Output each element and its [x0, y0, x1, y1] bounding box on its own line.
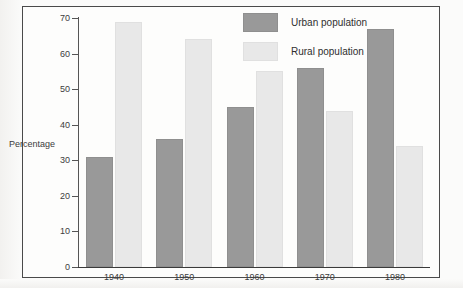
- y-axis-tick-label-text: 50: [44, 85, 70, 94]
- legend-item-urban: Urban population: [243, 12, 393, 32]
- x-axis-line: [78, 267, 430, 268]
- y-axis-tick-label-text: 20: [44, 192, 70, 201]
- y-axis-tick: [72, 125, 78, 126]
- y-axis-tick-label: 30: [40, 156, 70, 165]
- bar-1970-rural: [326, 111, 353, 268]
- bar-1950-urban: [156, 139, 183, 267]
- y-axis-tick: [72, 231, 78, 232]
- y-axis-tick: [72, 54, 78, 55]
- y-axis-title: Percentage: [9, 139, 55, 149]
- y-axis-tick: [72, 196, 78, 197]
- y-axis-line: [78, 17, 79, 268]
- y-axis-tick: [72, 160, 78, 161]
- legend-swatch-urban: [243, 13, 278, 32]
- y-axis-tick-label: 60: [40, 50, 70, 59]
- y-axis-tick: [72, 267, 78, 268]
- y-axis-tick-label-text: 0: [44, 263, 70, 272]
- y-axis-tick-label-text: 10: [44, 227, 70, 236]
- legend-swatch-rural: [243, 42, 278, 61]
- scanned-figure-page: Percentage 706050403020100 1940195019601…: [0, 0, 463, 288]
- y-axis-tick: [72, 89, 78, 90]
- y-axis-tick-label-text: 30: [44, 156, 70, 165]
- y-axis-tick-label: 20: [40, 192, 70, 201]
- legend-item-rural: Rural population: [243, 41, 393, 61]
- bar-1960-rural: [256, 71, 283, 267]
- bar-1940-urban: [86, 157, 113, 267]
- bar-1970-urban: [297, 68, 324, 267]
- y-axis-tick-label-text: 40: [44, 121, 70, 130]
- y-axis-tick-label-text: 60: [44, 50, 70, 59]
- bar-1960-urban: [227, 107, 254, 267]
- y-axis-tick-label-text: 70: [44, 14, 70, 23]
- y-axis-tick-label: 70: [40, 14, 70, 23]
- bar-1940-rural: [115, 22, 142, 267]
- x-axis-label-1950: 1950: [149, 272, 219, 282]
- x-axis-label-1970: 1970: [290, 272, 360, 282]
- legend-label-rural: Rural population: [291, 46, 364, 57]
- x-axis-label-1980: 1980: [360, 272, 430, 282]
- y-axis-tick-label: 40: [40, 121, 70, 130]
- y-axis-tick: [72, 18, 78, 19]
- chart-legend: Urban populationRural population: [243, 12, 393, 70]
- legend-label-urban: Urban population: [291, 17, 367, 28]
- y-axis-tick-label: 50: [40, 85, 70, 94]
- x-axis-label-1960: 1960: [219, 272, 289, 282]
- bar-1950-rural: [185, 39, 212, 267]
- bar-chart-plot-area: Percentage 706050403020100 1940195019601…: [0, 0, 463, 288]
- bar-1980-rural: [396, 146, 423, 267]
- y-axis-tick-label: 10: [40, 227, 70, 236]
- y-axis-tick-label: 0: [40, 263, 70, 272]
- x-axis-label-1940: 1940: [79, 272, 149, 282]
